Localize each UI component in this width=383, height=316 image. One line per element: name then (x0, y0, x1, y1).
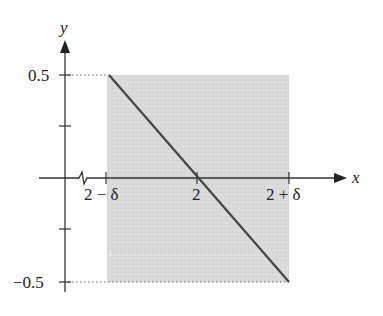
diagram-canvas: y x 0.5 −0.5 2 − δ 2 2 + δ (0, 0, 383, 316)
x-tick-label-right: 2 + δ (266, 185, 301, 204)
y-tick-label-top: 0.5 (28, 66, 49, 85)
x-axis-arrow-icon (334, 173, 347, 183)
y-tick-label-bottom: −0.5 (13, 273, 44, 292)
x-tick-label-mid: 2 (192, 185, 201, 204)
y-axis-label: y (58, 18, 68, 37)
y-axis-arrow-icon (60, 40, 70, 53)
x-tick-label-left: 2 − δ (84, 185, 119, 204)
x-axis-label: x (351, 168, 360, 187)
